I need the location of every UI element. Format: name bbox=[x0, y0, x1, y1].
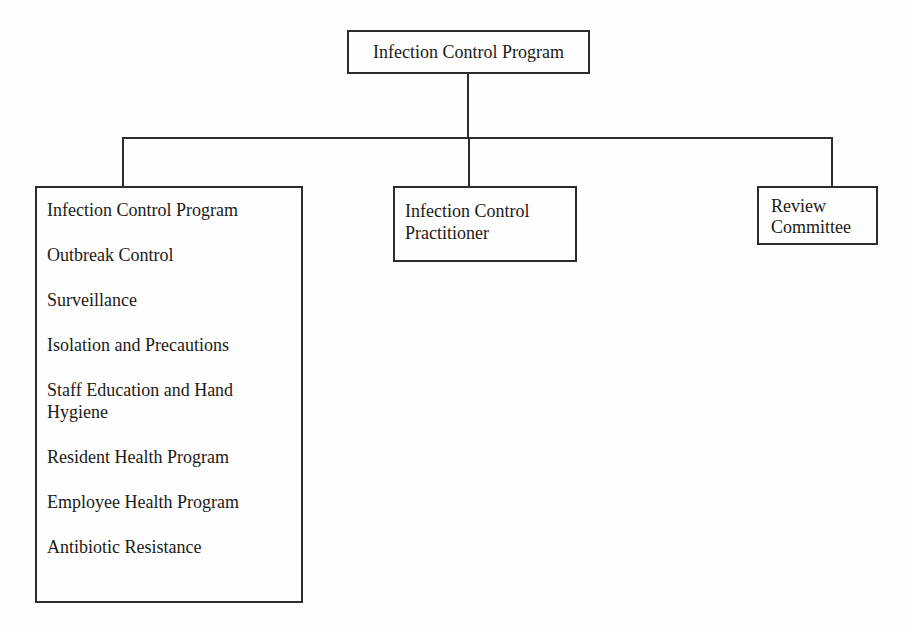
program-functions-list: Infection Control Program Outbreak Contr… bbox=[47, 199, 291, 558]
connector-root-stem bbox=[467, 74, 469, 138]
node-infection-control-practitioner: Infection Control Practitioner bbox=[393, 186, 577, 262]
node-program-functions: Infection Control Program Outbreak Contr… bbox=[35, 186, 303, 603]
connector-drop-practitioner bbox=[468, 137, 470, 187]
list-item: Resident Health Program bbox=[47, 446, 291, 468]
list-item: Isolation and Precautions bbox=[47, 334, 291, 356]
connector-horizontal-bar bbox=[122, 137, 833, 139]
list-item: Infection Control Program bbox=[47, 199, 291, 221]
node-review-committee: Review Committee bbox=[757, 186, 878, 245]
list-item: Surveillance bbox=[47, 289, 291, 311]
review-committee-node-label: Review Committee bbox=[771, 196, 851, 237]
root-node-label: Infection Control Program bbox=[373, 41, 564, 63]
list-item: Outbreak Control bbox=[47, 244, 291, 266]
root-node-infection-control-program: Infection Control Program bbox=[347, 30, 590, 74]
list-item: Employee Health Program bbox=[47, 491, 291, 513]
connector-drop-review-committee bbox=[831, 137, 833, 187]
list-item: Staff Education and Hand Hygiene bbox=[47, 379, 291, 423]
connector-drop-functions bbox=[122, 137, 124, 187]
practitioner-node-label: Infection Control Practitioner bbox=[405, 201, 529, 243]
org-chart-page: Infection Control Program Infection Cont… bbox=[0, 0, 910, 629]
list-item: Antibiotic Resistance bbox=[47, 536, 291, 558]
